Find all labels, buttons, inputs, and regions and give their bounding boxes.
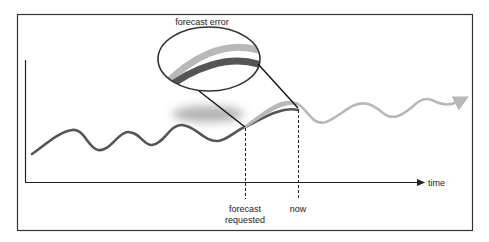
callout-label: forecast error [175, 17, 229, 27]
now-label: now [290, 204, 307, 214]
uncertainty-shadow [172, 106, 244, 122]
forecast-requested-label-2: requested [225, 215, 265, 225]
x-axis-label: time [428, 178, 445, 188]
forecast-error-diagram: forecast error time forecast requested n… [0, 0, 489, 242]
forecast-requested-label-1: forecast [229, 204, 262, 214]
